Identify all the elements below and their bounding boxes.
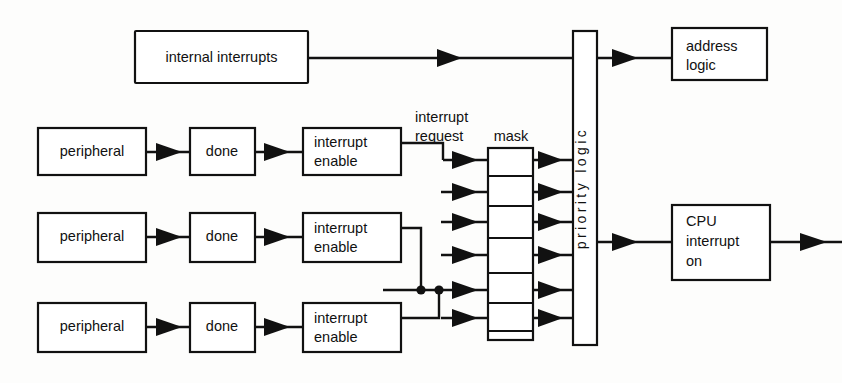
done-label-2: done <box>206 228 238 244</box>
address-logic-arrowhead <box>612 49 638 67</box>
interrupt-enable-label-1-line1: interrupt <box>314 134 367 150</box>
internal-interrupts-label: internal interrupts <box>165 49 277 65</box>
cpu-interrupt-on-group: CPU interrupt on <box>597 205 842 280</box>
internal-interrupts-group: internal interrupts <box>135 31 573 83</box>
peripheral-to-done-arrowhead-1 <box>156 143 182 161</box>
mask-input-arrowhead-6 <box>452 309 478 327</box>
priority-logic-label: priority logic <box>573 127 589 249</box>
done-label-1: done <box>206 143 238 159</box>
peripheral-label-1: peripheral <box>60 143 125 159</box>
mask-label: mask <box>494 128 529 144</box>
cpu-interrupt-label-line2: interrupt <box>686 233 739 249</box>
cpu-interrupt-label-line1: CPU <box>686 213 717 229</box>
mask-output-arrowhead-5 <box>538 281 563 299</box>
interrupt-request-label-line1: interrupt <box>415 109 468 125</box>
mask-output-arrows-group <box>533 151 573 327</box>
cpu-interrupt-output-arrowhead <box>800 233 827 251</box>
interrupt-enable-label-3-line2: enable <box>314 329 358 345</box>
peripheral-to-done-arrowhead-2 <box>156 228 182 246</box>
enable-1-to-mask-step <box>401 143 443 160</box>
interrupt-enable-label-2-line2: enable <box>314 239 358 255</box>
cpu-interrupt-arrowhead <box>612 233 638 251</box>
mask-input-arrowhead-4 <box>452 246 478 264</box>
mask-output-arrowhead-4 <box>538 246 563 264</box>
chain-row-2: peripheral done interrupt enable <box>38 213 421 290</box>
done-label-3: done <box>206 318 238 334</box>
peripheral-label-3: peripheral <box>60 318 125 334</box>
done-to-enable-arrowhead-1 <box>264 143 290 161</box>
mask-output-arrowhead-1 <box>538 151 563 169</box>
address-logic-label-line1: address <box>686 38 738 54</box>
cpu-interrupt-label-line3: on <box>686 253 702 269</box>
done-to-enable-arrowhead-2 <box>264 228 290 246</box>
priority-logic-group: priority logic <box>573 31 597 345</box>
internal-interrupts-arrowhead <box>437 49 462 67</box>
enable-2-to-junction-step <box>401 228 421 290</box>
chain-row-3: peripheral done interrupt enable <box>38 290 439 352</box>
diagram-canvas: internal interrupts priority logic addre… <box>0 0 842 383</box>
address-logic-group: address logic <box>597 28 767 80</box>
mask-input-arrowhead-2 <box>452 183 478 201</box>
mask-output-arrowhead-3 <box>538 213 563 231</box>
junction-dot-left <box>416 285 425 294</box>
mask-input-arrowhead-3 <box>452 213 478 231</box>
interrupt-enable-label-3-line1: interrupt <box>314 310 367 326</box>
mask-output-arrowhead-6 <box>538 309 563 327</box>
interrupt-block-diagram: internal interrupts priority logic addre… <box>0 0 842 383</box>
mask-output-arrowhead-2 <box>538 183 563 201</box>
address-logic-label-line2: logic <box>686 57 716 73</box>
peripheral-label-2: peripheral <box>60 228 125 244</box>
mask-input-arrowhead-5 <box>452 281 478 299</box>
interrupt-request-annotation: interrupt request <box>415 109 468 144</box>
mask-input-arrowhead-1 <box>452 151 478 169</box>
peripheral-to-done-arrowhead-3 <box>156 318 182 336</box>
interrupt-request-label-line2: request <box>415 128 463 144</box>
mask-group: mask <box>488 128 533 340</box>
junction-dot-right <box>434 285 443 294</box>
interrupt-enable-label-2-line1: interrupt <box>314 220 367 236</box>
done-to-enable-arrowhead-3 <box>264 318 290 336</box>
chain-row-1: peripheral done interrupt enable <box>38 128 443 175</box>
interrupt-enable-label-1-line2: enable <box>314 153 358 169</box>
